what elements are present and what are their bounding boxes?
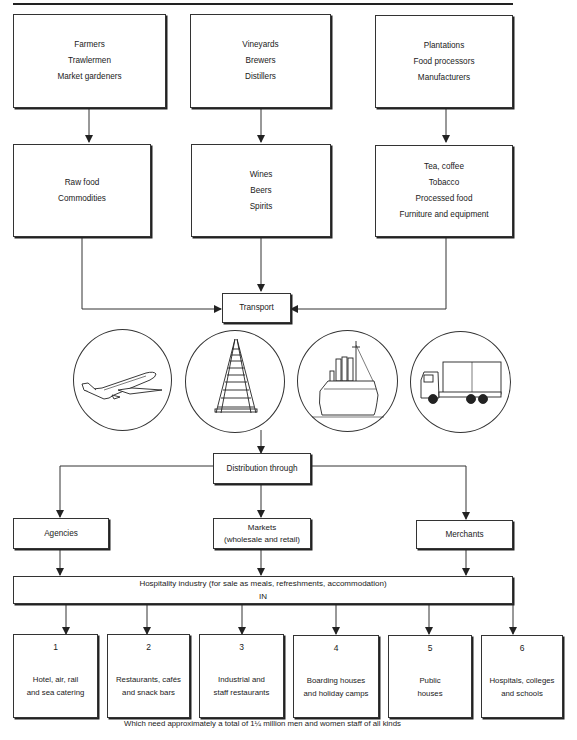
product-line: Commodities (58, 191, 106, 207)
channel-line: Agencies (44, 526, 78, 542)
channel-line: (wholesale and retail) (224, 534, 300, 546)
sector-line: and snack bars (122, 686, 175, 699)
railway-circle (185, 330, 285, 433)
sector-line: Public (419, 674, 440, 687)
producer-line: Farmers (74, 37, 104, 53)
ship-circle (297, 330, 398, 432)
producer-box-vineyards: Vineyards Brewers Distillers (190, 14, 331, 108)
ship-icon (298, 331, 399, 433)
distribution-label: Distribution through (227, 461, 298, 477)
product-box-goods: Tea, coffee Tobacco Processed food Furni… (375, 145, 513, 237)
sector-line: Restaurants, cafés (116, 673, 181, 686)
producer-line: Manufacturers (418, 70, 470, 86)
product-line: Furniture and equipment (399, 207, 488, 223)
airplane-circle (73, 329, 172, 431)
distribution-box: Distribution through (213, 453, 311, 484)
sector-box-6: 6 Hospitals, colleges and schools (481, 635, 563, 718)
product-line: Processed food (416, 191, 473, 207)
sector-number: 1 (53, 641, 58, 653)
hospitality-subtitle: IN (259, 590, 267, 603)
product-box-raw-food: Raw food Commodities (13, 144, 151, 237)
channel-box-markets: Markets (wholesale and retail) (213, 518, 311, 549)
channel-box-agencies: Agencies (13, 518, 109, 549)
footer-caption: Which need approximately a total of 1¼ m… (0, 719, 525, 728)
sector-number: 2 (146, 641, 151, 653)
product-box-drinks: Wines Beers Spirits (191, 144, 331, 237)
producer-box-plantations: Plantations Food processors Manufacturer… (375, 15, 513, 108)
producer-box-farmers: Farmers Trawlermen Market gardeners (13, 14, 166, 108)
product-line: Spirits (250, 199, 273, 215)
producer-line: Vineyards (242, 37, 278, 53)
sector-line: and sea catering (27, 686, 85, 699)
sector-number: 6 (520, 642, 525, 654)
channel-line: Markets (248, 522, 276, 534)
transport-label: Transport (239, 300, 274, 316)
sector-line: Hotel, air, rail (33, 673, 79, 686)
sector-box-4: 4 Boarding houses and holiday camps (293, 635, 379, 718)
sector-line: and holiday camps (303, 687, 368, 700)
transport-box: Transport (222, 293, 291, 323)
airplane-icon (74, 330, 173, 432)
producer-line: Plantations (424, 38, 465, 54)
product-line: Beers (250, 183, 271, 199)
sector-line: houses (417, 687, 442, 700)
sector-number: 5 (428, 642, 433, 654)
product-line: Tobacco (429, 175, 460, 191)
sector-line: and schools (501, 687, 543, 700)
hospitality-box: Hospitality industry (for sale as meals,… (13, 576, 513, 604)
sector-number: 3 (239, 641, 244, 653)
sector-line: Hospitals, colleges (489, 674, 554, 687)
producer-line: Distillers (245, 69, 276, 85)
lorry-circle (410, 331, 511, 433)
lorry-icon (411, 332, 512, 434)
sector-line: staff restaurants (214, 686, 270, 699)
sector-line: Industrial and (218, 673, 265, 686)
product-line: Wines (250, 167, 273, 183)
channel-line: Merchants (445, 527, 483, 543)
sector-box-1: 1 Hotel, air, rail and sea catering (13, 634, 98, 718)
sector-box-5: 5 Public houses (388, 635, 472, 718)
sector-number: 4 (334, 642, 339, 654)
sector-box-3: 3 Industrial and staff restaurants (199, 634, 284, 718)
sector-line: Boarding houses (307, 674, 366, 687)
hospitality-title: Hospitality industry (for sale as meals,… (139, 577, 386, 590)
product-line: Tea, coffee (424, 159, 464, 175)
producer-line: Market gardeners (57, 69, 121, 85)
producer-line: Trawlermen (68, 53, 111, 69)
producer-line: Food processors (414, 54, 475, 70)
producer-line: Brewers (245, 53, 275, 69)
channel-box-merchants: Merchants (416, 520, 513, 549)
product-line: Raw food (65, 175, 100, 191)
sector-box-2: 2 Restaurants, cafés and snack bars (107, 634, 190, 718)
railway-track-icon (186, 331, 286, 434)
